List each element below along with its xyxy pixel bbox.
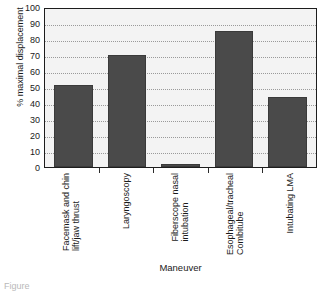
figure-container: % maximal displacement 01020304050607080…	[0, 0, 329, 291]
bar-slot	[261, 9, 314, 167]
category-slot: Esophageal/tracheal Combitube	[208, 173, 263, 261]
y-tick-label: 90	[14, 20, 40, 29]
x-category-label: Fiberscope nasal intubation	[170, 173, 191, 242]
bar[interactable]	[54, 85, 92, 167]
y-tick-label: 30	[14, 116, 40, 125]
x-category-label: Esophageal/tracheal Combitube	[225, 173, 246, 255]
y-tick-label: 80	[14, 36, 40, 45]
x-category-label: Facemask and chin lift/jaw thrust	[61, 173, 82, 251]
plot-area	[44, 8, 317, 168]
bar[interactable]	[268, 97, 306, 167]
y-tick-label: 60	[14, 68, 40, 77]
bar[interactable]	[215, 31, 253, 167]
category-slot: Fiberscope nasal intubation	[153, 173, 208, 261]
bar-slot	[154, 9, 207, 167]
bar[interactable]	[161, 164, 199, 167]
bar-slot	[47, 9, 100, 167]
y-tick-label: 0	[14, 164, 40, 173]
category-slot: Laryngoscopy	[99, 173, 154, 261]
bar[interactable]	[108, 55, 146, 167]
x-category-label: Laryngoscopy	[121, 173, 132, 229]
y-tick-label: 10	[14, 148, 40, 157]
bar-slot	[207, 9, 260, 167]
x-category-label: Intubating LMA	[284, 173, 295, 234]
bar-slot	[100, 9, 153, 167]
figure-caption: Figure	[4, 282, 204, 291]
y-tick-label: 70	[14, 52, 40, 61]
bar-series	[45, 9, 316, 167]
y-tick-label: 20	[14, 132, 40, 141]
y-axis-tick-labels: 0102030405060708090100	[14, 8, 40, 168]
category-slot: Facemask and chin lift/jaw thrust	[44, 173, 99, 261]
category-slot: Intubating LMA	[262, 173, 317, 261]
y-tick-label: 50	[14, 84, 40, 93]
x-axis-title: Maneuver	[44, 262, 317, 273]
y-tick-label: 40	[14, 100, 40, 109]
x-axis-category-labels: Facemask and chin lift/jaw thrustLaryngo…	[44, 173, 317, 261]
y-tick-label: 100	[14, 4, 40, 13]
